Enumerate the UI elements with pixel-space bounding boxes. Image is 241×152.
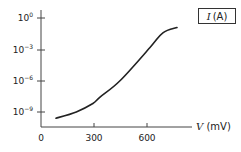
svg-text:300: 300 (85, 133, 102, 143)
svg-text:600: 600 (138, 133, 155, 143)
y-tick-label-0: 100 (18, 11, 33, 23)
y-axis-label-box: I (A) (198, 8, 236, 24)
y-unit: (A) (213, 11, 228, 22)
y-tick-label-1: 10−3 (13, 43, 33, 55)
x-symbol: V (196, 121, 203, 132)
x-ticks (94, 123, 147, 127)
svg-text:0: 0 (38, 133, 44, 143)
y-tick-label-3: 10−9 (13, 105, 33, 117)
x-axis-label: V (mV) (196, 121, 231, 132)
y-tick-label-2: 10−6 (13, 74, 33, 86)
iv-curve (56, 28, 177, 119)
y-symbol: I (207, 11, 211, 22)
x-unit: (mV) (206, 121, 230, 132)
x-tick-labels: 0 300 600 (38, 133, 156, 143)
y-tick-labels: 100 10−3 10−6 10−9 (13, 11, 33, 117)
